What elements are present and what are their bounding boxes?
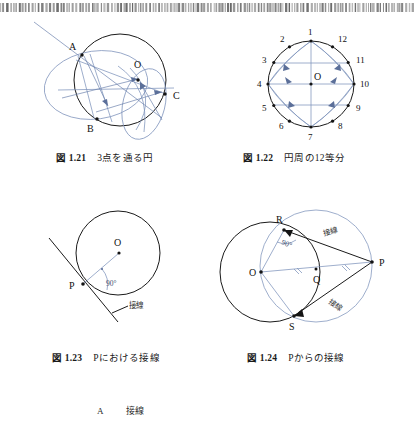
caption-figure-1-21: 図 1.213点を通る円	[56, 150, 153, 164]
label-division-4: 4	[257, 79, 262, 89]
caption-number: 図 1.24	[247, 353, 277, 363]
caption-text: Pからの接線	[288, 353, 344, 363]
label-division-5: 5	[262, 103, 267, 113]
caption-number: 図 1.21	[56, 153, 86, 163]
caption-number: 図 1.22	[243, 153, 273, 163]
figure-1-21: A O B C	[34, 22, 214, 147]
label-point-c: C	[173, 90, 180, 101]
label-point-o: O	[249, 267, 256, 278]
figure-1-23: O P 90° 接線	[40, 200, 205, 345]
label-tangent-upper: 接線	[322, 224, 339, 238]
label-division-10: 10	[360, 79, 370, 89]
label-division-7: 7	[308, 132, 313, 142]
label-center-o: O	[114, 237, 121, 248]
bottom-note-label: A	[97, 406, 104, 416]
label-point-s: S	[289, 321, 295, 332]
caption-text: 3点を通る円	[97, 153, 153, 163]
label-point-b: B	[87, 123, 94, 134]
caption-figure-1-24: 図 1.24Pからの接線	[247, 350, 345, 364]
figure-1-24: R O Q P S 90° 接線 接線	[232, 196, 412, 346]
label-angle-90: 90°	[280, 238, 293, 250]
label-division-2: 2	[280, 34, 285, 44]
caption-text: Pにおける接線	[93, 353, 160, 363]
scan-artifact-strip	[0, 3, 414, 12]
label-point-a: A	[69, 41, 77, 52]
label-division-9: 9	[356, 103, 361, 113]
label-point-p: P	[379, 257, 385, 268]
caption-number: 図 1.23	[52, 353, 82, 363]
label-tangent: 接線	[129, 300, 144, 310]
label-center-o: O	[314, 71, 321, 82]
caption-figure-1-22: 図 1.22円周の12等分	[243, 150, 345, 164]
label-point-r: R	[276, 214, 283, 225]
bottom-note: A接線	[97, 404, 144, 417]
label-division-12: 12	[338, 34, 347, 44]
caption-text: 円周の12等分	[284, 153, 345, 163]
label-division-6: 6	[279, 121, 284, 131]
label-division-1: 1	[308, 27, 313, 37]
label-division-8: 8	[338, 121, 343, 131]
label-tangent-lower: 接線	[327, 296, 345, 313]
label-point-p: P	[69, 280, 75, 291]
label-division-3: 3	[262, 55, 267, 65]
caption-figure-1-23: 図 1.23Pにおける接線	[52, 350, 160, 364]
figure-1-22: 1 2 3 4 5 6 7 8 9 10 11 12 O	[238, 22, 388, 147]
bottom-note-text: 接線	[126, 406, 144, 416]
label-angle-90: 90°	[106, 279, 117, 288]
scanned-page: A O B C 図 1.213点を通る円	[0, 0, 414, 431]
label-point-q: Q	[313, 274, 321, 285]
label-point-o: O	[134, 59, 141, 70]
label-division-11: 11	[356, 55, 365, 65]
